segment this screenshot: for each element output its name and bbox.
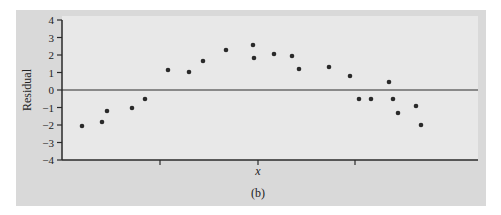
data-point (369, 97, 374, 102)
y-tick-label: 3 (49, 32, 55, 44)
data-point (348, 74, 353, 79)
data-point (251, 43, 256, 48)
y-tick-label: 0 (49, 84, 55, 96)
data-point (297, 67, 302, 72)
data-point (327, 65, 332, 70)
y-tick-label: 1 (49, 67, 55, 79)
data-point (100, 120, 105, 125)
data-point (252, 56, 257, 61)
data-point (166, 68, 171, 73)
y-axis-ticks: 43210−1−2−3−4 (42, 14, 62, 166)
y-tick-label: −3 (42, 137, 54, 149)
data-point (105, 109, 110, 114)
x-axis-title: x (254, 164, 261, 178)
data-point (357, 97, 362, 102)
data-point (224, 48, 229, 53)
data-point (396, 111, 401, 116)
data-point (130, 106, 135, 111)
data-point (387, 80, 392, 85)
data-point (391, 97, 396, 102)
data-point (187, 70, 192, 75)
y-tick-label: −2 (42, 119, 54, 131)
data-point (143, 97, 148, 102)
data-point (80, 124, 85, 129)
data-point (414, 104, 419, 109)
residual-scatter-plot: 43210−1−2−3−4 x Residual (b) (0, 0, 501, 215)
y-tick-label: 2 (49, 49, 55, 61)
y-axis-title: Residual (20, 68, 34, 111)
y-tick-label: 4 (49, 14, 55, 26)
y-tick-label: −1 (42, 102, 54, 114)
y-tick-label: −4 (42, 154, 54, 166)
data-point (419, 123, 424, 128)
data-points (80, 43, 424, 129)
data-point (290, 54, 295, 59)
panel-label: (b) (251, 186, 265, 200)
data-point (272, 52, 277, 57)
data-point (201, 59, 206, 64)
